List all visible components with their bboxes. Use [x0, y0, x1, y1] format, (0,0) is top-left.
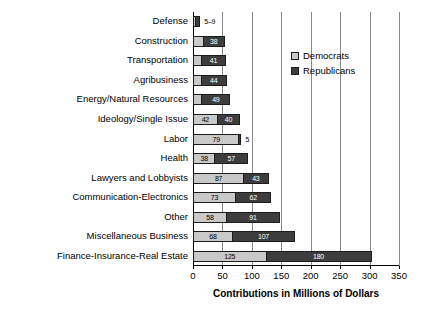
bar-value-democrats: 42: [202, 116, 209, 123]
legend-item-dem: Democrats: [291, 49, 355, 62]
bar-value-republicans: 38: [210, 38, 217, 45]
x-tick-label: 150: [273, 270, 289, 281]
x-tick-mark: [340, 266, 341, 269]
bar-segment-republicans: 44: [201, 75, 227, 86]
bar-segment-democrats: 79: [193, 134, 239, 145]
category-axis-labels: DefenseConstructionTransportationAgribus…: [0, 12, 188, 266]
category-label: Construction: [135, 35, 188, 46]
bar-value-republicans-outside: 5: [245, 134, 249, 145]
bar-value-democrats: 58: [206, 214, 213, 221]
bar-segment-democrats: 58: [193, 212, 227, 223]
x-tick-mark: [311, 266, 312, 269]
x-tick-label: 200: [303, 270, 319, 281]
legend-swatch-icon: [291, 67, 299, 75]
bar-value-outside: 5–9: [204, 16, 215, 27]
bar-segment-democrats: 73: [193, 192, 236, 203]
x-axis-title: Contributions in Millions of Dollars: [193, 288, 399, 299]
bar-row: 44: [193, 75, 227, 86]
bar-segment-republicans: [195, 16, 200, 27]
bar-segment-republicans: 43: [243, 173, 268, 184]
bar-row: 68107: [193, 231, 295, 242]
bar-value-democrats: 68: [209, 233, 216, 240]
legend: DemocratsRepublicans: [291, 49, 355, 79]
x-tick-label: 50: [217, 270, 228, 281]
bar-value-republicans: 49: [212, 96, 219, 103]
bar-segment-democrats: 38: [193, 153, 215, 164]
x-tick-label: 350: [391, 270, 407, 281]
bar-segment-republicans: 49: [201, 94, 230, 105]
bar-row: [193, 16, 200, 27]
category-label: Communication-Electronics: [72, 191, 188, 202]
bar-row: 5891: [193, 212, 280, 223]
bar-segment-republicans: 41: [201, 55, 225, 66]
bar-value-republicans: 57: [227, 155, 234, 162]
bar-value-republicans: 44: [210, 77, 217, 84]
stacked-bar-chart: DefenseConstructionTransportationAgribus…: [0, 0, 421, 320]
category-label: Transportation: [127, 54, 188, 65]
x-tick-label: 0: [190, 270, 195, 281]
category-label: Other: [164, 211, 188, 222]
category-label: Defense: [153, 15, 188, 26]
x-tick-mark: [370, 266, 371, 269]
category-label: Finance-Insurance-Real Estate: [57, 250, 188, 261]
bar-value-republicans: 107: [258, 233, 269, 240]
x-axis-ticks: 050100150200250300350: [193, 266, 399, 282]
bar-segment-democrats: 87: [193, 173, 244, 184]
bar-segment-republicans: 180: [266, 251, 372, 262]
gridline-350: [399, 12, 400, 266]
bar-value-republicans: 91: [249, 214, 256, 221]
bar-value-democrats: 87: [215, 175, 222, 182]
category-label: Health: [161, 152, 188, 163]
bar-segment-republicans: 40: [217, 114, 241, 125]
bar-segment-democrats: 42: [193, 114, 218, 125]
bar-row: 3857: [193, 153, 248, 164]
bar-value-republicans: 62: [250, 194, 257, 201]
bar-value-republicans: 41: [210, 57, 217, 64]
legend-item-rep: Republicans: [291, 64, 355, 77]
x-tick-mark: [281, 266, 282, 269]
x-tick-label: 300: [362, 270, 378, 281]
category-label: Miscellaneous Business: [87, 230, 188, 241]
category-label: Agribusiness: [134, 74, 188, 85]
bar-row: 125180: [193, 251, 372, 262]
bar-row: 7362: [193, 192, 271, 203]
bar-segment-republicans: 57: [214, 153, 248, 164]
bar-segment-republicans: [238, 134, 241, 145]
bar-value-democrats: 125: [224, 253, 235, 260]
bar-segment-republicans: 62: [235, 192, 271, 203]
bar-segment-republicans: 91: [226, 212, 280, 223]
category-label: Labor: [164, 133, 188, 144]
category-label: Lawyers and Lobbyists: [91, 172, 188, 183]
legend-label: Democrats: [303, 51, 349, 61]
x-tick-mark: [399, 266, 400, 269]
bar-row: 41: [193, 55, 226, 66]
bar-value-democrats: 79: [213, 136, 220, 143]
x-tick-mark: [252, 266, 253, 269]
bar-segment-democrats: 125: [193, 251, 267, 262]
bar-row: 8743: [193, 173, 269, 184]
bar-row: 79: [193, 134, 241, 145]
category-label: Ideology/Single Issue: [98, 113, 188, 124]
bar-segment-democrats: 68: [193, 231, 233, 242]
bar-row: 49: [193, 94, 230, 105]
bar-value-republicans: 40: [225, 116, 232, 123]
x-tick-label: 100: [244, 270, 260, 281]
x-tick-mark: [222, 266, 223, 269]
bar-value-republicans: 180: [313, 253, 324, 260]
bar-segment-republicans: 38: [203, 36, 225, 47]
bar-value-democrats: 73: [211, 194, 218, 201]
x-tick-label: 250: [332, 270, 348, 281]
bar-segment-republicans: 107: [232, 231, 295, 242]
x-tick-mark: [193, 266, 194, 269]
legend-swatch-icon: [291, 52, 299, 60]
bar-value-republicans: 43: [252, 175, 259, 182]
bar-value-democrats: 38: [200, 155, 207, 162]
bar-row: 38: [193, 36, 225, 47]
bar-row: 4240: [193, 114, 240, 125]
category-label: Energy/Natural Resources: [77, 93, 188, 104]
legend-label: Republicans: [303, 66, 355, 76]
